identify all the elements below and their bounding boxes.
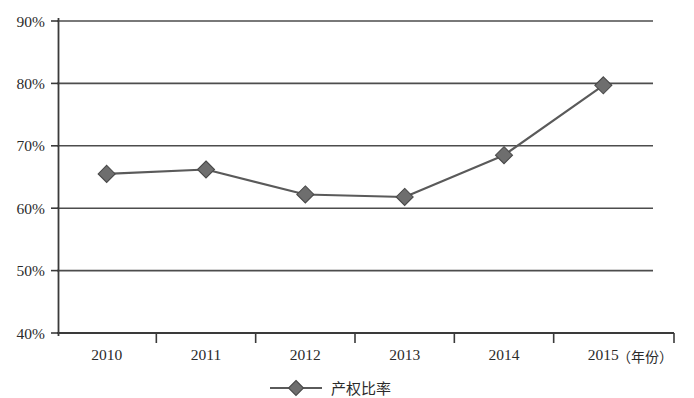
y-tick-label-90: 90% [17, 13, 46, 30]
equity-ratio-line-chart: 40%50%60%70%80%90% 201020112012201320142… [0, 0, 694, 398]
legend-label-equity-ratio: 产权比率 [331, 380, 391, 398]
chart-background [0, 0, 694, 398]
x-tick-label-2015: 2015 [588, 346, 619, 363]
y-tick-label-50: 50% [17, 262, 46, 279]
x-axis-unit-label: （年份） [617, 349, 673, 365]
y-tick-label-40: 40% [17, 325, 46, 342]
x-tick-label-2010: 2010 [91, 346, 122, 363]
chart-container: 40%50%60%70%80%90% 201020112012201320142… [0, 0, 694, 398]
x-tick-label-2013: 2013 [389, 346, 420, 363]
x-tick-label-2011: 2011 [191, 346, 221, 363]
x-tick-label-2012: 2012 [290, 346, 321, 363]
y-tick-label-80: 80% [17, 75, 46, 92]
y-tick-label-70: 70% [17, 137, 46, 154]
y-tick-label-60: 60% [17, 200, 46, 217]
x-tick-label-2014: 2014 [489, 346, 520, 363]
